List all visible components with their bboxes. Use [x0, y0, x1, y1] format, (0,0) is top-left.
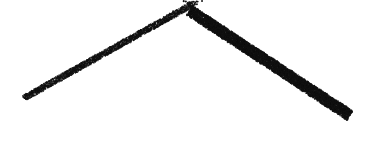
cone-stipple-canvas — [0, 0, 376, 165]
stipple-figure: Stippled cone — [0, 0, 376, 165]
